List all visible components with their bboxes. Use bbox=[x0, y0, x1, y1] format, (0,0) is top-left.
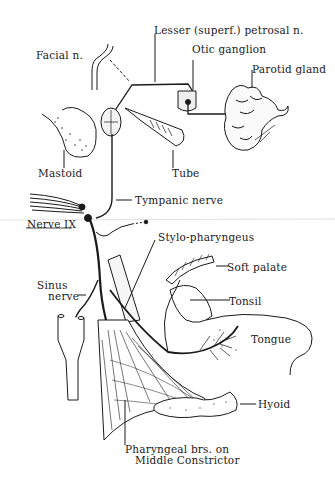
label-stylo-pharyngeus: Stylo-pharyngeus bbox=[158, 232, 254, 243]
label-hyoid: Hyoid bbox=[258, 399, 291, 410]
label-sinus-nerve-line2: nerve bbox=[48, 291, 79, 302]
label-facial-nerve: Facial n. bbox=[36, 50, 83, 61]
label-pharyngeal-branches-line2: Middle Constrictor bbox=[135, 455, 240, 466]
label-mastoid: Mastoid bbox=[38, 168, 82, 179]
label-parotid-gland: Parotid gland bbox=[252, 64, 326, 75]
label-tongue: Tongue bbox=[251, 334, 291, 345]
label-otic-ganglion: Otic ganglion bbox=[192, 44, 266, 55]
label-tympanic-nerve: Tympanic nerve bbox=[135, 195, 223, 206]
label-soft-palate: Soft palate bbox=[227, 262, 287, 273]
label-sinus-nerve-line1: Sinus bbox=[37, 280, 67, 291]
label-nerve-ix: Nerve IX bbox=[27, 219, 76, 230]
label-tube: Tube bbox=[172, 168, 200, 179]
label-lesser-petrosal-nerve: Lesser (superf.) petrosal n. bbox=[154, 25, 304, 36]
label-pharyngeal-branches-line1: Pharyngeal brs. on bbox=[125, 444, 229, 455]
label-tonsil: Tonsil bbox=[229, 296, 262, 307]
